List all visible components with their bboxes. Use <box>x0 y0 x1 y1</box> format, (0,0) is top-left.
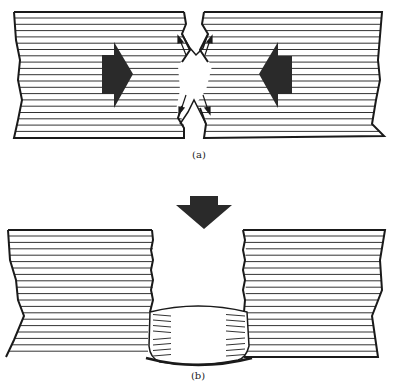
caption-b: (b) <box>191 370 205 381</box>
panel-b-right-block <box>236 230 394 357</box>
panel-b: (b) <box>0 196 394 381</box>
arrow-right-icon <box>102 42 133 108</box>
caption-a: (a) <box>192 149 206 160</box>
arrow-left-icon <box>259 42 292 108</box>
hatch-lines <box>0 18 200 131</box>
squeeze-contour <box>182 34 208 55</box>
hatch-lines <box>0 236 160 351</box>
diagram: (a) (b) <box>0 0 394 385</box>
panel-a-left-block <box>0 12 200 138</box>
arrow-down-icon <box>176 196 232 229</box>
panel-a: (a) <box>0 12 394 160</box>
hatch-lines <box>236 236 394 351</box>
compressed-joint <box>146 306 252 365</box>
panel-b-left-block <box>0 230 160 357</box>
